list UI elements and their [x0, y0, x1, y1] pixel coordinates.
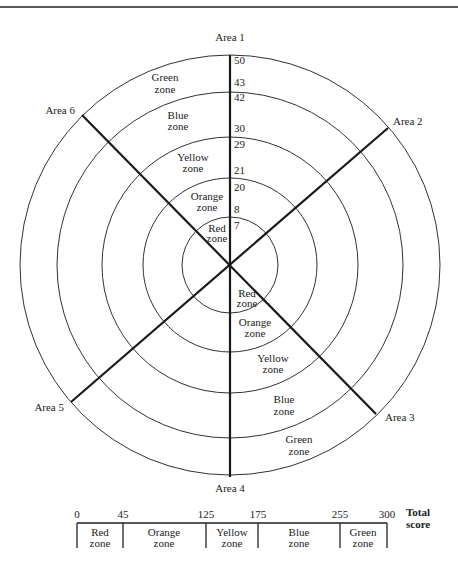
scale-label-21: 21 — [234, 164, 245, 176]
lower-orange-zone-label-2: zone — [245, 327, 266, 339]
total-red-zone-label-2: zone — [90, 537, 111, 549]
zone-diagram: Area 1 Area 2 Area 3 Area 4 Area 5 Area … — [0, 0, 458, 571]
scale-label-29: 29 — [234, 138, 246, 150]
area-4-label: Area 4 — [215, 482, 245, 494]
upper-blue-zone-label-2: zone — [168, 120, 189, 132]
scale-label-30: 30 — [234, 122, 246, 134]
total-score-bar: 0 45 125 175 255 300 Total score Red zon… — [74, 506, 430, 549]
area-1-label: Area 1 — [215, 31, 245, 43]
scale-label-43: 43 — [234, 76, 246, 88]
lower-red-zone-label-2: zone — [237, 297, 258, 309]
scale-label-8: 8 — [234, 203, 240, 215]
total-score-title: Total — [406, 506, 430, 518]
total-green-zone-label-2: zone — [353, 537, 374, 549]
lower-yellow-zone-label-2: zone — [263, 363, 284, 375]
scale-label-20: 20 — [234, 181, 246, 193]
total-tick-300: 300 — [379, 508, 396, 520]
total-score-title-2: score — [406, 518, 430, 530]
upper-red-zone-label-2: zone — [207, 232, 228, 244]
upper-green-zone-label-2: zone — [155, 83, 176, 95]
area-6-label: Area 6 — [45, 104, 75, 116]
scale-label-42: 42 — [234, 91, 245, 103]
total-orange-zone-label-2: zone — [154, 537, 175, 549]
lower-blue-zone-label: Blue — [274, 393, 295, 405]
area-spokes — [71, 55, 388, 477]
scale-label-7: 7 — [234, 219, 240, 231]
area-5-label: Area 5 — [34, 401, 64, 413]
upper-green-zone-label: Green — [152, 71, 179, 83]
scale-label-50: 50 — [234, 54, 246, 66]
lower-green-zone-label-2: zone — [289, 445, 310, 457]
area-scale-labels: 50 43 42 30 29 21 20 8 7 — [234, 54, 246, 231]
total-tick-45: 45 — [118, 508, 130, 520]
area-2-label: Area 2 — [393, 115, 423, 127]
upper-yellow-zone-label-2: zone — [183, 162, 204, 174]
total-tick-255: 255 — [332, 508, 349, 520]
lower-green-zone-label: Green — [286, 433, 313, 445]
total-tick-125: 125 — [198, 508, 215, 520]
total-tick-175: 175 — [250, 508, 267, 520]
upper-orange-zone-label-2: zone — [197, 201, 218, 213]
lower-blue-zone-label-2: zone — [274, 405, 295, 417]
total-tick-0: 0 — [74, 508, 80, 520]
total-yellow-zone-label-2: zone — [222, 537, 243, 549]
total-blue-zone-label-2: zone — [289, 537, 310, 549]
area-3-label: Area 3 — [385, 411, 415, 423]
